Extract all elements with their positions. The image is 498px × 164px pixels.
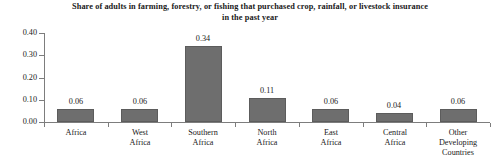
x-axis-category-label-line: Countries [426, 148, 490, 158]
x-axis-tick [363, 123, 364, 127]
bar-value-label: 0.34 [173, 35, 233, 43]
bar[interactable] [312, 109, 349, 122]
bar[interactable] [440, 109, 477, 122]
x-axis-category-label-line: Africa [44, 128, 108, 138]
x-axis-category-label-line: East [299, 128, 363, 138]
y-axis-tick [39, 55, 44, 56]
x-axis-category-label-line: Africa [171, 138, 235, 148]
x-axis-category-label-line: Southern [171, 128, 235, 138]
bar[interactable] [121, 109, 158, 122]
x-axis-category-label-line: Africa [108, 138, 172, 148]
bar[interactable] [57, 109, 94, 122]
x-axis-category-label-line: Central [363, 128, 427, 138]
y-axis-tick [39, 78, 44, 79]
x-axis-tick [490, 123, 491, 127]
x-axis-category-label-line: Other [426, 128, 490, 138]
y-axis-line [44, 33, 45, 123]
x-axis-category-label-line: Africa [363, 138, 427, 148]
x-axis-category-label-line: Developing [426, 138, 490, 148]
bar-value-label: 0.06 [301, 98, 361, 106]
x-axis-category-label: WestAfrica [108, 128, 172, 148]
y-axis-tick [39, 33, 44, 34]
bar[interactable] [376, 113, 413, 122]
x-axis-line [44, 122, 490, 123]
bar-value-label: 0.04 [364, 102, 424, 110]
x-axis-category-label: NorthAfrica [235, 128, 299, 148]
x-axis-tick [235, 123, 236, 127]
x-axis-tick [171, 123, 172, 127]
y-axis-label: 0.10 [3, 96, 37, 104]
x-axis-category-label-line: Africa [299, 138, 363, 148]
y-axis-label: 0.20 [3, 74, 37, 82]
x-axis-tick [44, 123, 45, 127]
x-axis-category-label: EastAfrica [299, 128, 363, 148]
x-axis-category-label: OtherDevelopingCountries [426, 128, 490, 158]
x-axis-category-label-line: North [235, 128, 299, 138]
x-axis-category-label: CentralAfrica [363, 128, 427, 148]
x-axis-category-label-line: Africa [235, 138, 299, 148]
x-axis-category-label: SouthernAfrica [171, 128, 235, 148]
bar-value-label: 0.06 [428, 98, 488, 106]
x-axis-category-label: Africa [44, 128, 108, 138]
bar-value-label: 0.06 [46, 98, 106, 106]
y-axis-label: 0.30 [3, 51, 37, 59]
bar-chart-plot-area: 0.400.300.200.100.000.06Africa0.06WestAf… [0, 0, 498, 164]
bar-value-label: 0.06 [110, 98, 170, 106]
x-axis-category-label-line: West [108, 128, 172, 138]
bar[interactable] [249, 98, 286, 122]
y-axis-tick [39, 100, 44, 101]
x-axis-tick [108, 123, 109, 127]
x-axis-tick [426, 123, 427, 127]
x-axis-tick [299, 123, 300, 127]
bar-value-label: 0.11 [237, 87, 297, 95]
y-axis-label: 0.00 [3, 118, 37, 126]
y-axis-label: 0.40 [3, 29, 37, 37]
bar[interactable] [185, 46, 222, 122]
